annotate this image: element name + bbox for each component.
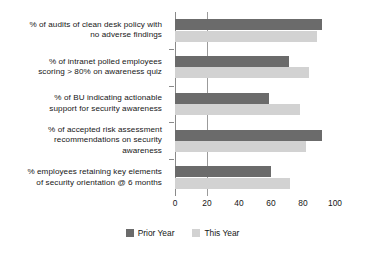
category-label-3: % of accepted risk assessmentrecommendat… — [0, 125, 162, 157]
category-label-line: % of intranet polled employees — [0, 57, 162, 68]
category-label-2: % of BU indicating actionablesupport for… — [0, 93, 162, 114]
x-tick-label-20: 20 — [195, 198, 219, 208]
bar-chart: % of audits of clean desk policy withno … — [0, 0, 365, 253]
category-label-line: recommendations on security — [0, 135, 162, 146]
category-label-line: % employees retaining key elements — [0, 167, 162, 178]
bar-this-year-3 — [175, 141, 306, 152]
legend-label: This Year — [204, 228, 239, 238]
bar-this-year-4 — [175, 178, 290, 189]
chart-legend: Prior YearThis Year — [0, 228, 365, 238]
category-tick-3 — [169, 159, 174, 160]
x-tick-label-60: 60 — [259, 198, 283, 208]
legend-item-this-year[interactable]: This Year — [192, 228, 239, 238]
legend-swatch-icon — [192, 229, 200, 237]
x-tick-label-0: 0 — [163, 198, 187, 208]
category-label-line: % of audits of clean desk policy with — [0, 20, 162, 31]
category-label-line: of security orientation @ 6 months — [0, 178, 162, 189]
category-tick-2 — [169, 122, 174, 123]
category-label-4: % employees retaining key elementsof sec… — [0, 167, 162, 188]
x-tick-label-80: 80 — [291, 198, 315, 208]
value-axis: 020406080100 — [175, 196, 335, 212]
bar-prior-year-2 — [175, 93, 269, 104]
bar-prior-year-1 — [175, 56, 289, 67]
category-label-line: awareness — [0, 146, 162, 157]
category-tick-1 — [169, 86, 174, 87]
category-label-line: % of BU indicating actionable — [0, 93, 162, 104]
legend-swatch-icon — [126, 229, 134, 237]
category-label-1: % of intranet polled employeesscoring > … — [0, 57, 162, 78]
category-label-line: % of accepted risk assessment — [0, 125, 162, 136]
category-tick-0 — [169, 49, 174, 50]
legend-label: Prior Year — [138, 228, 175, 238]
plot-area — [175, 12, 335, 196]
category-axis-labels: % of audits of clean desk policy withno … — [0, 0, 168, 196]
bar-this-year-0 — [175, 31, 317, 42]
bar-prior-year-3 — [175, 130, 322, 141]
category-label-line: no adverse findings — [0, 30, 162, 41]
category-label-line: support for security awareness — [0, 104, 162, 115]
category-label-line: scoring > 80% on awareness quiz — [0, 67, 162, 78]
bar-prior-year-4 — [175, 166, 271, 177]
bar-this-year-2 — [175, 104, 300, 115]
bar-prior-year-0 — [175, 19, 322, 30]
x-tick-label-100: 100 — [323, 198, 347, 208]
x-tick-label-40: 40 — [227, 198, 251, 208]
category-label-0: % of audits of clean desk policy withno … — [0, 20, 162, 41]
legend-item-prior-year[interactable]: Prior Year — [126, 228, 175, 238]
bar-this-year-1 — [175, 67, 309, 78]
